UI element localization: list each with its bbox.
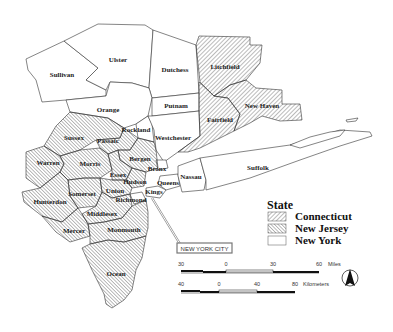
label-passaic: Passaic [97, 137, 119, 145]
label-westchester: Westchester [155, 134, 191, 142]
legend: State Connecticut New Jersey New York [267, 198, 352, 246]
legend-swatch-new-jersey [268, 224, 286, 233]
label-orange: Orange [97, 106, 120, 114]
label-mercer: Mercer [63, 227, 85, 235]
north-arrow-icon [342, 269, 358, 286]
label-litchfield: Litchfield [210, 63, 239, 71]
label-queens: Queens [157, 179, 179, 187]
label-richmond: Richmond [115, 196, 146, 204]
legend-label-new-jersey: New Jersey [295, 222, 349, 234]
map-figure: Sullivan Ulster Dutchess Orange Putnam R… [0, 0, 393, 332]
legend-swatch-new-york [268, 236, 286, 245]
label-kings: Kings [145, 188, 163, 196]
label-hudson: Hudson [123, 178, 146, 186]
legend-item-connecticut: Connecticut [268, 210, 352, 222]
scale-bar-kilometers: 40 0 40 80 Kilometers [178, 281, 329, 293]
island [346, 118, 358, 122]
label-ocean: Ocean [106, 270, 125, 278]
scale-km-tick-3: 80 [292, 281, 298, 287]
legend-label-connecticut: Connecticut [295, 210, 352, 222]
label-sullivan: Sullivan [50, 71, 75, 79]
scale-km-unit: Kilometers [303, 281, 329, 287]
label-bronx: Bronx [148, 165, 167, 173]
label-dutchess: Dutchess [162, 66, 189, 74]
scale-miles-tick-1: 0 [224, 261, 227, 267]
scale-miles-tick-3: 60 [316, 261, 322, 267]
label-monmouth: Monmouth [107, 226, 141, 234]
legend-title: State [267, 198, 294, 212]
label-union: Union [106, 187, 124, 195]
label-rockland: Rockland [122, 126, 151, 134]
scale-km-tick-2: 40 [254, 281, 260, 287]
nyc-callout-label: NEW YORK CITY [181, 246, 229, 252]
label-putnam: Putnam [164, 102, 188, 110]
county-suffolk [200, 130, 372, 190]
label-morris: Morris [80, 160, 101, 168]
scale-miles-unit: Miles [328, 261, 341, 267]
scale-km-tick-1: 0 [217, 281, 220, 287]
nyc-callout: NEW YORK CITY [152, 198, 232, 253]
legend-item-new-york: New York [268, 234, 342, 246]
legend-swatch-connecticut [268, 212, 286, 221]
scale-miles-tick-2: 30 [270, 261, 276, 267]
legend-label-new-york: New York [295, 234, 342, 246]
label-new-haven: New Haven [245, 102, 280, 110]
label-fairfield: Fairfield [207, 116, 233, 124]
label-ulster: Ulster [109, 56, 127, 64]
label-hunterdon: Hunterdon [33, 198, 66, 206]
label-somerset: Somerset [68, 190, 96, 198]
label-bergen: Bergen [129, 155, 150, 163]
county-dutchess [149, 30, 199, 98]
label-nassau: Nassau [180, 173, 202, 181]
scale-km-tick-0: 40 [178, 281, 184, 287]
scale-miles-tick-0: 30 [178, 261, 184, 267]
label-middlesex: Middlesex [87, 210, 118, 218]
legend-item-new-jersey: New Jersey [268, 222, 349, 234]
label-warren: Warren [36, 159, 59, 167]
label-sussex: Sussex [64, 134, 84, 142]
scale-bar-miles: 30 0 30 60 Miles [178, 261, 341, 273]
label-suffolk: Suffolk [247, 164, 269, 172]
